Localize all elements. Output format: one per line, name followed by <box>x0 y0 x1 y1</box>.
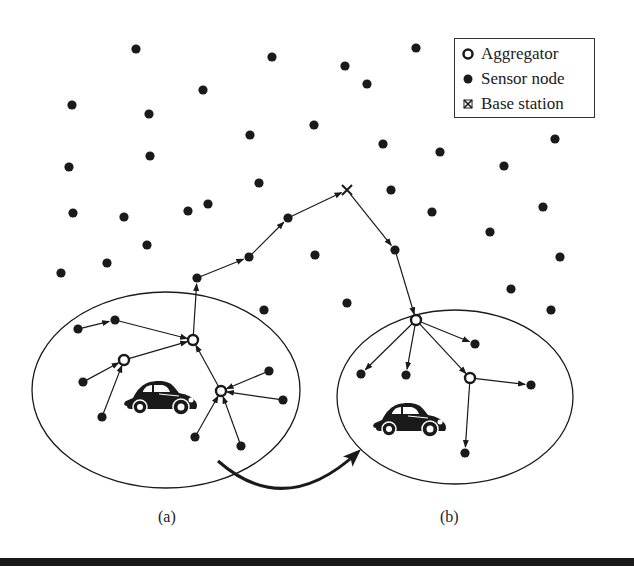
car-icon <box>124 381 197 415</box>
data-flow-arrow <box>465 382 469 447</box>
sensor-node-icon <box>362 79 371 88</box>
sensor-node-icon <box>546 305 555 314</box>
movement-arrow <box>218 452 358 488</box>
sensor-node-icon <box>378 139 387 148</box>
sensor-node-icon <box>283 213 292 222</box>
data-flow-arrow <box>365 323 413 370</box>
sensor-node-icon <box>401 370 410 379</box>
sensor-node-icon <box>386 185 395 194</box>
legend-label: Sensor node <box>481 69 565 89</box>
base-station-icon <box>461 97 475 111</box>
data-flow-arrow <box>252 222 284 254</box>
sensor-node-icon <box>142 240 151 249</box>
sensor-node-icon <box>144 109 153 118</box>
sensor-node-icon <box>190 432 199 441</box>
aggregator-icon <box>188 335 198 345</box>
data-flow-arrow <box>227 373 266 389</box>
data-flow-arrow <box>196 345 219 387</box>
sensor-node-icon <box>435 147 444 156</box>
legend-item-sensor-node: Sensor node <box>461 66 594 91</box>
legend-item-aggregator: Aggregator <box>461 41 594 66</box>
sensor-node-icon <box>192 273 201 282</box>
sensor-node-icon <box>342 298 351 307</box>
sensor-node-icon <box>356 369 365 378</box>
data-flow-arrow <box>128 342 187 359</box>
data-flow-arrow <box>82 321 109 328</box>
sensor-node-icon <box>198 85 207 94</box>
data-flow-arrow <box>474 378 525 384</box>
sensor-node-icon <box>278 395 287 404</box>
aggregator-icon <box>411 315 421 325</box>
sensor-node-icon <box>264 366 273 375</box>
sensor-node-icon <box>56 268 65 277</box>
data-flow-arrow <box>396 254 414 314</box>
data-flow-arrow <box>227 392 279 400</box>
sensor-node-icon <box>254 178 263 187</box>
sensor-node-icon <box>460 448 469 457</box>
legend: Aggregator Sensor node Base station <box>454 38 595 118</box>
sensor-node-icon <box>340 61 349 70</box>
sensor-node-icon <box>73 324 82 333</box>
sensor-node-icon <box>267 52 276 61</box>
sensor-node-icon <box>183 206 192 215</box>
sensor-node-icon <box>102 258 111 267</box>
data-flow-arrow <box>193 284 196 336</box>
caption-b: (b) <box>440 508 459 526</box>
data-flow-arrow <box>197 396 218 433</box>
sensor-node-icon <box>203 199 212 208</box>
sensor-node-icon <box>119 212 128 221</box>
sensor-node-icon <box>145 151 154 160</box>
sensor-node-icon <box>526 380 535 389</box>
sensor-node-icon <box>506 284 515 293</box>
aggregator-icon <box>216 386 226 396</box>
legend-label: Base station <box>481 94 564 114</box>
sensor-node-icon <box>67 100 76 109</box>
data-flow-arrow <box>292 193 342 217</box>
sensor-node-icon <box>68 208 77 217</box>
sensor-node-icon <box>390 245 399 254</box>
sensor-node-icon <box>245 130 254 139</box>
aggregator-icon <box>461 47 475 61</box>
sensor-node-icon <box>550 134 559 143</box>
sensor-node-icon <box>470 339 479 348</box>
data-flow-arrow <box>119 321 187 339</box>
sensor-node-icon <box>259 305 268 314</box>
sensor-node-icon <box>236 441 245 450</box>
sensor-node-icon <box>64 162 73 171</box>
sensor-node-icon <box>427 207 436 216</box>
legend-label: Aggregator <box>481 44 558 64</box>
sensor-node-icon <box>131 44 140 53</box>
aggregator-icon <box>119 355 129 365</box>
sensor-node-icon <box>485 227 494 236</box>
data-flow-arrow <box>103 366 121 414</box>
sensor-node-icon <box>499 161 508 170</box>
data-flow-arrow <box>407 324 415 369</box>
sensor-node-icon <box>538 202 547 211</box>
sensor-node-icon <box>110 315 119 324</box>
sensor-node-icon <box>309 120 318 129</box>
sensor-node-icon <box>97 412 106 421</box>
sensor-node-icon <box>555 252 564 261</box>
sensor-node-icon <box>244 252 253 261</box>
data-flow-arrow <box>87 363 119 380</box>
sensor-node-icon <box>78 377 87 386</box>
data-flow-arrow <box>349 193 391 245</box>
data-flow-arrow <box>223 397 240 443</box>
aggregator-icon <box>465 373 475 383</box>
legend-item-base-station: Base station <box>461 91 594 116</box>
base-station-icon <box>342 185 352 195</box>
bottom-rule <box>0 558 634 566</box>
data-flow-arrow <box>201 259 244 276</box>
sensor-node-icon <box>310 250 319 259</box>
sensor-node-icon <box>461 72 475 86</box>
caption-a: (a) <box>158 508 176 526</box>
sensor-node-icon <box>411 43 420 52</box>
car-icon <box>373 403 446 437</box>
